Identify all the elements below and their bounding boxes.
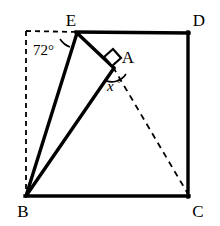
angle-label-72-degrees: 72° <box>33 42 54 58</box>
right-angle-marker-at-A <box>104 49 121 66</box>
edge-corner-E-dashed <box>26 31 78 32</box>
vertex-label-A: A <box>122 48 135 67</box>
vertex-label-C: C <box>192 202 203 221</box>
angle-arc-at-E <box>60 39 70 47</box>
edge-E-D <box>76 32 189 33</box>
vertex-label-D: D <box>193 11 205 30</box>
angle-label-x-degree-symbol: ° <box>117 78 121 89</box>
edge-A-B <box>26 68 114 196</box>
geometry-figure: E D A B C 72° x ° <box>0 0 220 226</box>
vertex-label-E: E <box>66 11 76 30</box>
angle-label-x-variable: x <box>106 78 114 94</box>
edge-A-C-dashed <box>113 67 188 194</box>
vertex-label-B: B <box>17 202 28 221</box>
angle-label-x-degrees: x ° <box>106 78 121 94</box>
geometry-canvas: E D A B C 72° x ° <box>0 0 220 226</box>
